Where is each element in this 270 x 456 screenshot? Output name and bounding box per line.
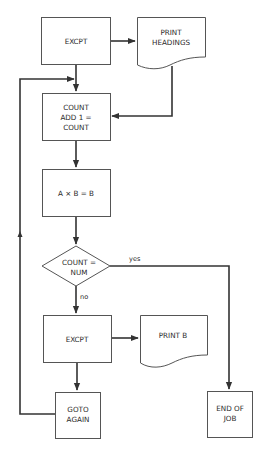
edge-print-headings-to-count — [112, 66, 172, 116]
node-goto-again: GOTO AGAIN — [56, 393, 101, 439]
node-count-add: COUNT ADD 1 = COUNT — [43, 94, 111, 141]
node-print-b-label: PRINT B — [159, 331, 187, 340]
node-goto-again-line-1: GOTO — [67, 405, 89, 414]
node-goto-again-line-2: AGAIN — [67, 415, 90, 424]
node-end-of-job-line-2: JOB — [223, 414, 237, 423]
node-end-of-job-line-1: END OF — [216, 404, 244, 413]
flowchart-diagram: EXCPT PRINT HEADINGS COUNT ADD 1 = COUNT… — [0, 0, 270, 456]
edge-label-yes: yes — [129, 255, 141, 263]
node-excpt-1: EXCPT — [42, 18, 111, 65]
node-print-b: PRINT B — [141, 316, 208, 368]
node-print-headings: PRINT HEADINGS — [138, 18, 206, 69]
node-multiply: A × B = B — [43, 170, 111, 217]
node-decision: COUNT = NUM — [42, 246, 110, 286]
node-decision-line-2: NUM — [71, 268, 88, 277]
node-excpt-2: EXCPT — [44, 316, 112, 363]
loop-direction-arrow-icon — [18, 231, 23, 237]
node-multiply-label: A × B = B — [58, 189, 94, 198]
node-print-headings-line-2: HEADINGS — [152, 38, 190, 47]
node-decision-line-1: COUNT = — [62, 258, 96, 267]
edge-label-no: no — [80, 293, 88, 301]
node-end-of-job: END OF JOB — [208, 392, 253, 438]
node-print-headings-line-1: PRINT — [160, 28, 182, 37]
node-count-add-line-1: COUNT — [63, 103, 89, 112]
node-count-add-line-2: ADD 1 = — [60, 113, 91, 122]
node-excpt-2-label: EXCPT — [66, 335, 89, 344]
node-count-add-line-3: COUNT — [63, 123, 89, 132]
node-excpt-1-label: EXCPT — [65, 37, 88, 46]
